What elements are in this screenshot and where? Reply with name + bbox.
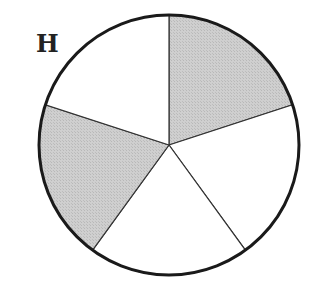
fraction-circle xyxy=(0,0,310,294)
